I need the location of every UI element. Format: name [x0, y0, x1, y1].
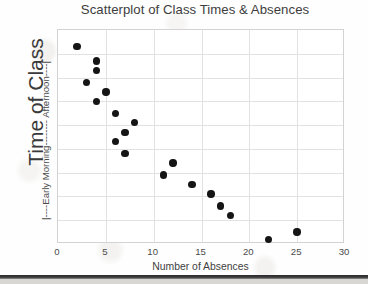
- x-axis-title: Number of Absences: [57, 261, 344, 272]
- y-axis-range-annotation: |----Early Morning-------- Afternoon----…: [40, 33, 51, 248]
- scatter-point: [293, 228, 300, 235]
- gridline-vertical: [106, 30, 107, 242]
- gridline-horizontal: [58, 196, 343, 197]
- gridline-horizontal: [58, 78, 343, 79]
- gridline-vertical: [249, 30, 250, 242]
- x-tick-label: 15: [188, 246, 214, 257]
- x-tick-label: 10: [140, 246, 166, 257]
- gridline-horizontal: [58, 173, 343, 174]
- scatter-point: [169, 159, 176, 166]
- scatter-point: [227, 212, 234, 219]
- scatter-point: [112, 138, 119, 145]
- scatter-point: [83, 79, 90, 86]
- chart-title: Scatterplot of Class Times & Absences: [40, 2, 350, 17]
- scatter-point: [102, 88, 109, 95]
- x-tick-label: 25: [283, 246, 309, 257]
- scatter-point: [73, 43, 80, 50]
- gridline-vertical: [297, 30, 298, 242]
- scatter-point: [93, 98, 100, 105]
- gridline-horizontal: [58, 149, 343, 150]
- scatter-point: [188, 181, 195, 188]
- scan-edge-band-secondary: [0, 279, 368, 284]
- scatter-point: [265, 236, 272, 243]
- x-tick-label: 20: [235, 246, 261, 257]
- gridline-vertical: [202, 30, 203, 242]
- gridline-horizontal: [58, 220, 343, 221]
- gridline-horizontal: [58, 125, 343, 126]
- x-tick-label: 0: [44, 246, 70, 257]
- x-tick-label: 30: [331, 246, 357, 257]
- gridline-horizontal: [58, 101, 343, 102]
- plot-area: [57, 29, 344, 243]
- gridline-vertical: [154, 30, 155, 242]
- scatter-point: [217, 202, 224, 209]
- scatter-point: [207, 190, 214, 197]
- scatter-point: [93, 57, 100, 64]
- scatter-point: [121, 150, 128, 157]
- scatter-point: [93, 67, 100, 74]
- scatter-point: [112, 110, 119, 117]
- scatter-point: [121, 129, 128, 136]
- chart-page: Scatterplot of Class Times & Absences Ti…: [0, 0, 368, 284]
- gridline-horizontal: [58, 54, 343, 55]
- x-tick-label: 5: [92, 246, 118, 257]
- scatter-point: [160, 171, 167, 178]
